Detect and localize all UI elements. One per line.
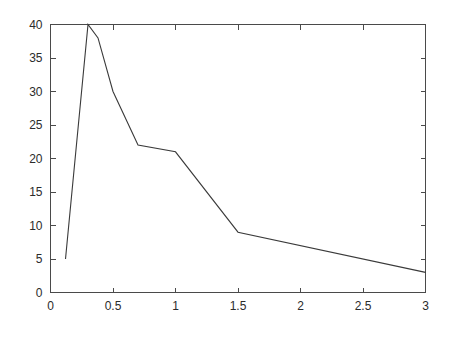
x-tick-label: 2.5 — [355, 299, 372, 313]
y-tick-label: 10 — [29, 219, 43, 233]
x-tick-label: 0.5 — [105, 299, 122, 313]
y-tick-label: 5 — [36, 252, 43, 266]
x-tick-label: 0 — [47, 299, 54, 313]
y-tick-label: 35 — [29, 51, 43, 65]
chart-figure: 00.511.522.53 0510152025303540 — [0, 0, 451, 339]
y-tick-label: 25 — [29, 118, 43, 132]
x-tick-label: 2 — [297, 299, 304, 313]
line-chart: 00.511.522.53 0510152025303540 — [0, 0, 451, 339]
x-tick-label: 3 — [422, 299, 429, 313]
y-tick-label: 20 — [29, 152, 43, 166]
x-tick-label: 1.5 — [230, 299, 247, 313]
y-tick-label: 0 — [36, 286, 43, 300]
y-tick-label: 40 — [29, 18, 43, 32]
y-tick-label: 15 — [29, 185, 43, 199]
y-tick-label: 30 — [29, 85, 43, 99]
figure-background — [0, 0, 451, 339]
x-tick-label: 1 — [172, 299, 179, 313]
